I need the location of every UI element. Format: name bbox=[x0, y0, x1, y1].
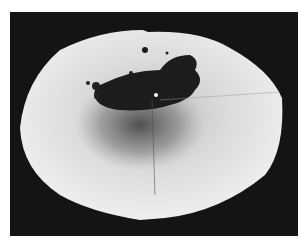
photo bbox=[0, 0, 307, 244]
center-hole bbox=[154, 93, 158, 97]
